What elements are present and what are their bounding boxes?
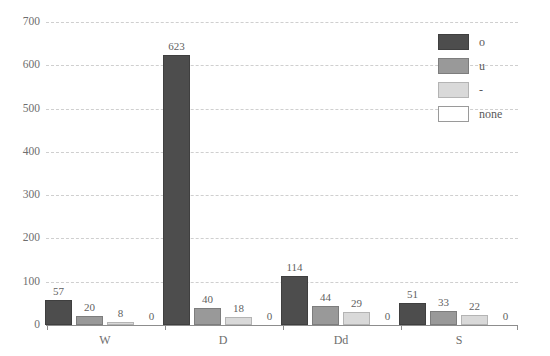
y-axis-tick-label: 200 [6,232,40,244]
bar[interactable] [45,300,72,325]
bar-chart: 57208062340180114442905133220 0100200300… [0,0,550,356]
bar[interactable] [312,306,339,325]
bar-value-label: 18 [225,303,252,314]
bar-value-label: 22 [461,301,488,312]
bar-value-label: 8 [107,308,134,319]
y-axis-tick-label: 0 [6,319,40,331]
y-axis-tick-label: 400 [6,146,40,158]
legend-label: none [479,108,502,120]
legend-label: - [479,84,483,96]
y-axis-tick-label: 100 [6,276,40,288]
bar-value-label: 0 [492,311,519,322]
bar[interactable] [343,312,370,325]
legend-label: u [479,60,485,72]
x-axis-tick [401,325,402,330]
x-axis-tick [165,325,166,330]
legend-swatch [438,34,469,50]
gridline [46,152,518,153]
x-axis-group-label: W [45,334,165,346]
bar-value-label: 40 [194,294,221,305]
x-axis-group-label: Dd [281,334,401,346]
x-axis-group-label: S [399,334,519,346]
bar-value-label: 623 [163,41,190,52]
legend-label: o [479,36,485,48]
bar[interactable] [225,317,252,325]
y-axis-tick-label: 700 [6,16,40,28]
legend-item[interactable]: - [438,79,542,101]
bar-value-label: 51 [399,289,426,300]
gridline [46,238,518,239]
legend-swatch [438,106,469,122]
bar-value-label: 33 [430,297,457,308]
bar[interactable] [76,316,103,325]
gridline [46,22,518,23]
y-axis-tick-label: 500 [6,103,40,115]
legend-item[interactable]: o [438,31,542,53]
y-axis-tick-label: 300 [6,189,40,201]
x-axis-tick [517,325,518,330]
bar[interactable] [399,303,426,325]
x-axis-line [46,325,518,326]
bar-value-label: 0 [138,311,165,322]
legend-swatch [438,58,469,74]
x-axis-group-label: D [163,334,283,346]
y-axis-tick-label: 600 [6,59,40,71]
x-axis-tick [283,325,284,330]
bar-value-label: 44 [312,292,339,303]
bar[interactable] [281,276,308,325]
bar[interactable] [430,311,457,325]
bar-value-label: 0 [256,311,283,322]
legend-item[interactable]: none [438,103,542,125]
bar-value-label: 57 [45,286,72,297]
bar-value-label: 0 [374,311,401,322]
bar-value-label: 29 [343,298,370,309]
bar[interactable] [461,315,488,325]
bar[interactable] [194,308,221,325]
bar[interactable] [163,55,190,325]
bar-value-label: 20 [76,302,103,313]
legend-swatch [438,82,469,98]
bar-value-label: 114 [281,262,308,273]
legend: ou-none [438,31,542,127]
legend-item[interactable]: u [438,55,542,77]
gridline [46,195,518,196]
x-axis-tick [47,325,48,330]
